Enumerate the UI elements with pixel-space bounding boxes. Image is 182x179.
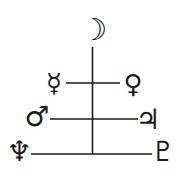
moon-icon: ☽ [81,15,108,45]
mars-icon: ♂ [24,103,49,131]
neptune-icon: ♆ [6,138,31,166]
mercury-icon: ☿ [46,70,62,96]
jupiter-icon: ♃ [135,106,160,134]
planetary-glyph-diagram: ☽ ☿ ♀ ♂ ♃ ♆ ♇ [0,0,182,179]
pluto-icon: ♇ [150,138,175,166]
venus-icon: ♀ [123,71,142,97]
